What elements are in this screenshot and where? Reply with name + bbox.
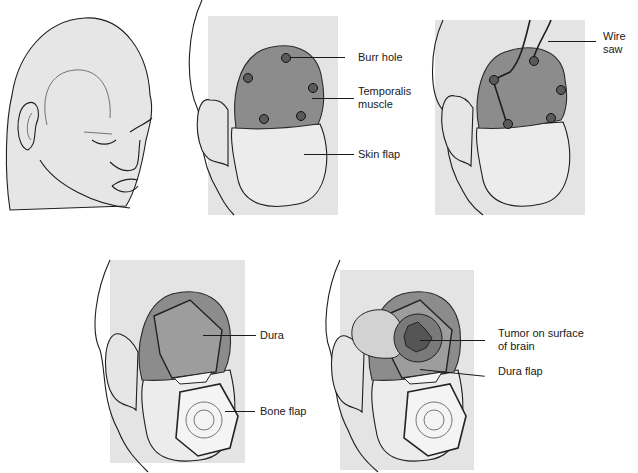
leader-skin-flap — [304, 154, 354, 155]
wire-saw-illustration — [435, 0, 585, 215]
leader-dura — [203, 335, 256, 336]
label-skin-flap: Skin flap — [358, 148, 400, 161]
head-illustration — [0, 0, 190, 210]
label-wire-saw: Wire saw — [603, 30, 626, 56]
label-dura: Dura — [260, 329, 284, 342]
leader-bone-flap — [225, 411, 255, 412]
label-temporalis-muscle: Temporalis muscle — [358, 85, 411, 111]
label-dura-flap: Dura flap — [498, 365, 543, 378]
panel-head-incision — [0, 0, 190, 210]
leader-wire-saw — [548, 41, 596, 42]
leader-temporalis — [312, 98, 354, 99]
label-tumor: Tumor on surface of brain — [498, 327, 584, 353]
panel-wire-saw — [435, 0, 585, 215]
panel-tumor-exposure — [300, 260, 480, 473]
panel-burr-holes — [190, 0, 340, 215]
tumor-exposure-illustration — [300, 260, 480, 473]
panel-bone-flap — [80, 260, 250, 473]
leader-tumor — [420, 340, 485, 341]
bone-flap-illustration — [80, 260, 250, 473]
burr-holes-illustration — [190, 0, 340, 215]
label-burr-hole: Burr hole — [358, 51, 403, 64]
leader-burr-hole — [290, 57, 345, 58]
